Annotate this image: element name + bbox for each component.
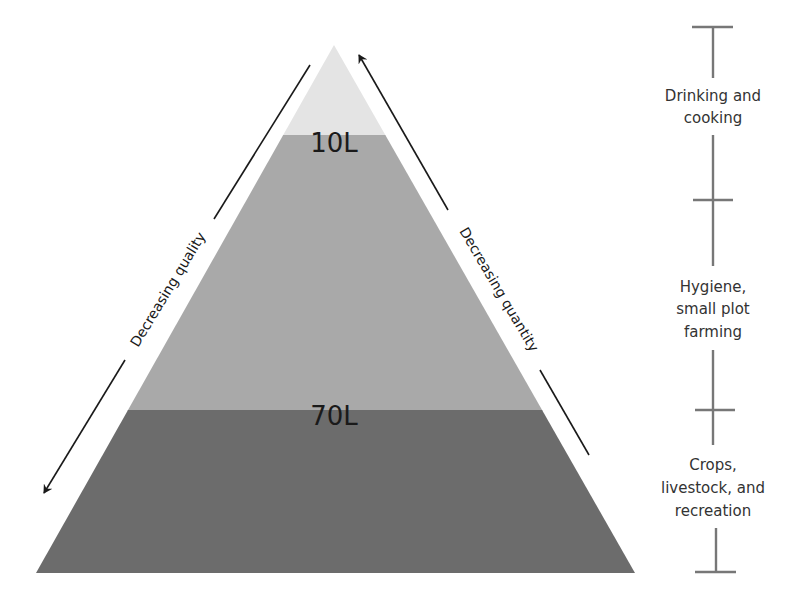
- pyramid: [0, 40, 700, 580]
- scale-segment-drinking: Drinking and cooking: [665, 87, 761, 127]
- pyramid-band-middle: [0, 135, 700, 411]
- scale-label-line: Hygiene,: [680, 278, 747, 296]
- band-label-70l: 70L: [310, 401, 358, 431]
- scale-segment-hygiene: Hygiene, small plot farming: [676, 278, 750, 341]
- pyramid-band-top: [0, 40, 700, 136]
- scale-label-line: recreation: [675, 502, 751, 520]
- scale-label-line: Drinking and: [665, 87, 761, 105]
- band-label-10l: 10L: [310, 128, 358, 158]
- scale-label-line: Crops,: [689, 456, 737, 474]
- scale-label-line: farming: [684, 323, 742, 341]
- pyramid-band-bottom: [0, 410, 700, 580]
- scale-label-line: small plot: [676, 300, 750, 318]
- scale-label-line: livestock, and: [661, 479, 765, 497]
- scale-segment-crops: Crops, livestock, and recreation: [661, 456, 765, 520]
- water-pyramid-diagram: 10L 70L Decreasing quality Decreasing qu…: [0, 0, 787, 596]
- scale-label-line: cooking: [684, 109, 742, 127]
